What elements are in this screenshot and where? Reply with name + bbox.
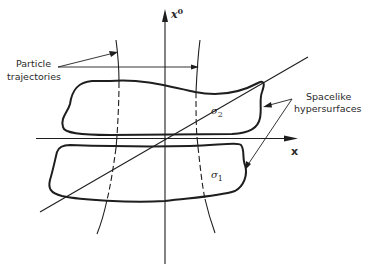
time-axis-label: x0 — [170, 6, 184, 21]
spacelike-leader-lower-arrowhead — [245, 161, 251, 170]
hypersurface-sigma-2 — [62, 81, 263, 135]
spacelike-leader-lower — [247, 99, 292, 166]
particle-leader-left — [58, 53, 114, 67]
sigma-1-label: σ1 — [211, 169, 223, 183]
particle-trajectory-left — [97, 40, 119, 234]
spacetime-diagram: x0 x σ2 σ1 Particle trajectories Spaceli… — [0, 0, 366, 279]
spacelike-leader-upper-arrowhead — [263, 102, 272, 108]
spacelike-hypersurfaces-label: Spacelike hypersurfaces — [294, 91, 362, 114]
particle-trajectory-right — [196, 40, 215, 233]
space-axis-arrowhead — [284, 136, 298, 142]
time-axis-arrowhead — [162, 9, 168, 22]
particle-trajectories-label: Particle trajectories — [7, 58, 61, 82]
time-axis — [162, 9, 168, 264]
particle-leader-left-arrowhead — [109, 51, 118, 57]
space-axis-label: x — [291, 145, 298, 158]
